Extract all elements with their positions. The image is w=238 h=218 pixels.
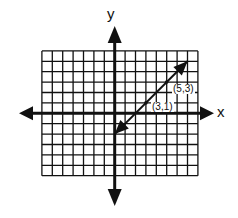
y-axis-label: y (107, 6, 115, 21)
point-label-5-3: (5,3) (172, 84, 195, 94)
point-label-3-1: (3,1) (151, 102, 174, 112)
axes (19, 26, 214, 206)
coordinate-plane (0, 0, 238, 218)
x-axis-label: x (217, 104, 225, 119)
